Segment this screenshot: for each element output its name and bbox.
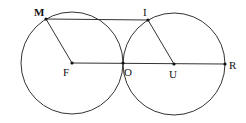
label-i: I	[143, 6, 147, 18]
segment-iu	[148, 20, 174, 64]
segment-mf	[46, 19, 72, 63]
segment-fr	[72, 63, 225, 64]
point-u	[172, 62, 175, 65]
segment-mi	[46, 19, 148, 20]
point-o	[121, 61, 124, 64]
point-i	[146, 18, 149, 21]
point-m	[44, 17, 47, 20]
point-f	[70, 61, 73, 64]
geometry-diagram: M I F O U R	[0, 0, 246, 123]
label-o: O	[124, 66, 132, 78]
label-r: R	[229, 59, 237, 71]
label-m: M	[34, 6, 45, 18]
point-r	[223, 62, 226, 65]
label-f: F	[63, 66, 69, 78]
label-u: U	[169, 68, 177, 80]
